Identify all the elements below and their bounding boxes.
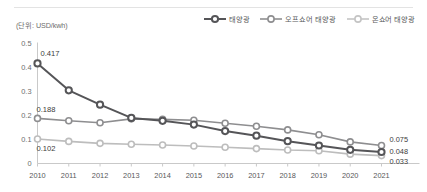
data-point[interactable]: [316, 142, 322, 148]
x-tick-label: 2018: [279, 171, 295, 180]
data-point[interactable]: [191, 122, 197, 128]
x-tick-label: 2011: [61, 171, 77, 180]
y-tick-label: 0.4: [21, 63, 31, 72]
y-tick-label: 0: [27, 159, 31, 168]
data-point[interactable]: [378, 149, 384, 155]
data-point[interactable]: [160, 142, 166, 148]
x-tick-label: 2019: [311, 171, 327, 180]
data-point[interactable]: [347, 139, 353, 145]
data-point[interactable]: [347, 147, 353, 153]
data-point[interactable]: [253, 133, 259, 139]
data-point[interactable]: [97, 120, 103, 126]
data-point[interactable]: [316, 132, 322, 138]
start-value-label: 0.102: [37, 144, 56, 153]
series-solar: [34, 60, 384, 155]
end-value-label: 0.048: [390, 147, 409, 156]
data-point[interactable]: [253, 146, 259, 152]
data-point[interactable]: [35, 115, 41, 121]
y-tick-label: 0.5: [21, 39, 31, 48]
data-point[interactable]: [222, 128, 228, 134]
data-point[interactable]: [285, 127, 291, 133]
data-point[interactable]: [35, 136, 41, 142]
line-chart-canvas: 00.10.20.30.40.5201020112012201320142015…: [0, 0, 427, 192]
data-point[interactable]: [222, 120, 228, 126]
data-point[interactable]: [97, 102, 103, 108]
data-point[interactable]: [253, 123, 259, 129]
data-point[interactable]: [34, 60, 40, 66]
data-point[interactable]: [66, 138, 72, 144]
x-tick-label: 2020: [342, 171, 358, 180]
series-line: [38, 63, 382, 152]
data-point[interactable]: [285, 147, 291, 153]
data-point[interactable]: [285, 138, 291, 144]
series-line: [38, 118, 382, 145]
series-offshore: [35, 115, 385, 148]
data-point[interactable]: [66, 118, 72, 124]
x-tick-label: 2012: [92, 171, 108, 180]
y-tick-label: 0.3: [21, 87, 31, 96]
start-value-label: 0.188: [37, 105, 56, 114]
start-value-label: 0.417: [41, 49, 60, 58]
data-point[interactable]: [222, 144, 228, 150]
x-tick-label: 2010: [29, 171, 45, 180]
y-tick-label: 0.2: [21, 111, 31, 120]
data-point[interactable]: [379, 143, 385, 149]
data-point[interactable]: [97, 140, 103, 146]
x-tick-label: 2021: [373, 171, 389, 180]
x-tick-label: 2017: [248, 171, 264, 180]
data-point[interactable]: [128, 115, 134, 121]
data-point[interactable]: [159, 118, 165, 124]
y-tick-label: 0.1: [21, 135, 31, 144]
data-point[interactable]: [191, 143, 197, 149]
end-value-label: 0.075: [390, 135, 409, 144]
chart-figure: 태양광 오프쇼어 태양광 온쇼어 태양광 (단위: USD/kwh) 00.10…: [0, 0, 427, 192]
x-tick-label: 2015: [186, 171, 202, 180]
data-point[interactable]: [66, 87, 72, 93]
x-tick-label: 2014: [154, 171, 170, 180]
x-tick-label: 2013: [123, 171, 139, 180]
data-point[interactable]: [128, 141, 134, 147]
x-tick-label: 2016: [217, 171, 233, 180]
end-value-label: 0.033: [390, 157, 409, 166]
